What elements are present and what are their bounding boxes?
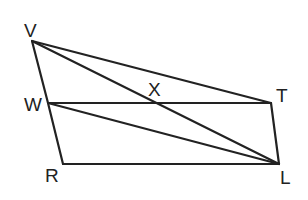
label-v: V [24, 20, 37, 41]
label-w: W [24, 94, 42, 115]
label-x: X [148, 79, 161, 100]
segments [32, 41, 279, 164]
label-l: L [280, 167, 291, 188]
segment-wr [48, 103, 63, 164]
geometry-diagram: V W R L T X [0, 0, 308, 200]
label-r: R [45, 165, 59, 186]
segment-lt [271, 103, 279, 164]
segment-wl [48, 103, 279, 164]
label-t: T [276, 85, 288, 106]
